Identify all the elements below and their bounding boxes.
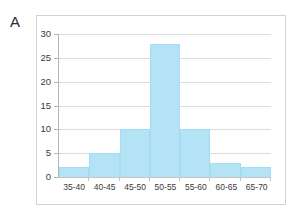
x-tick-mark bbox=[270, 177, 271, 181]
bar bbox=[59, 167, 89, 177]
bar-slot bbox=[241, 34, 271, 177]
bar-slot bbox=[120, 34, 150, 177]
bar-series bbox=[59, 34, 271, 177]
x-tick-label: 50-55 bbox=[150, 183, 180, 192]
x-tick-label: 55-60 bbox=[181, 183, 211, 192]
x-tick-label: 60-65 bbox=[211, 183, 241, 192]
x-tick-label: 65-70 bbox=[242, 183, 272, 192]
chart-frame: 051015202530 35-4040-4545-5050-5555-6060… bbox=[36, 15, 286, 205]
y-tick-label: 15 bbox=[40, 101, 51, 111]
bar bbox=[89, 153, 119, 177]
y-tick-mark bbox=[54, 129, 58, 130]
figure-panel: A 051015202530 35-4040-4545-5050-5555-60… bbox=[0, 0, 296, 218]
y-tick-mark bbox=[54, 82, 58, 83]
bar bbox=[241, 167, 271, 177]
y-tick-label: 10 bbox=[40, 125, 51, 135]
y-tick-label: 5 bbox=[46, 148, 51, 158]
y-tick-label: 30 bbox=[40, 29, 51, 39]
y-tick-mark bbox=[54, 177, 58, 178]
bar bbox=[180, 129, 210, 177]
x-tick-label: 45-50 bbox=[120, 183, 150, 192]
x-tick-mark bbox=[149, 177, 150, 181]
x-tick-label: 35-40 bbox=[59, 183, 89, 192]
y-tick-label: 0 bbox=[46, 172, 51, 182]
x-tick-mark bbox=[240, 177, 241, 181]
y-tick-label: 20 bbox=[40, 77, 51, 87]
bar-slot bbox=[59, 34, 89, 177]
bar bbox=[120, 129, 150, 177]
y-tick-mark bbox=[54, 153, 58, 154]
y-tick-label: 25 bbox=[40, 53, 51, 63]
bar bbox=[210, 163, 240, 177]
x-tick-mark bbox=[179, 177, 180, 181]
plot-area: 051015202530 bbox=[58, 34, 271, 177]
y-tick-mark bbox=[54, 106, 58, 107]
y-tick-mark bbox=[54, 34, 58, 35]
bar-slot bbox=[210, 34, 240, 177]
x-tick-label: 40-45 bbox=[89, 183, 119, 192]
y-tick-mark bbox=[54, 58, 58, 59]
x-tick-mark bbox=[88, 177, 89, 181]
panel-label: A bbox=[10, 14, 20, 29]
x-tick-mark bbox=[209, 177, 210, 181]
bar-slot bbox=[180, 34, 210, 177]
bar-slot bbox=[150, 34, 180, 177]
bar bbox=[150, 44, 180, 177]
x-axis-tick-labels: 35-4040-4545-5050-5555-6060-6565-70 bbox=[59, 183, 272, 192]
x-tick-mark bbox=[119, 177, 120, 181]
bar-slot bbox=[89, 34, 119, 177]
